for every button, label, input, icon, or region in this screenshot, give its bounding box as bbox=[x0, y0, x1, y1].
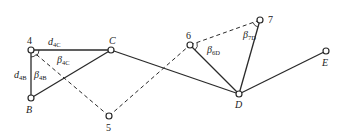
angle-arc-4C bbox=[37, 50, 40, 56]
dashed-edge-4-5 bbox=[31, 50, 109, 116]
edge-D-E bbox=[239, 51, 326, 94]
annotation-beta6D: β6D bbox=[206, 44, 220, 56]
annotation-d4C: d4C bbox=[48, 36, 61, 48]
point-E bbox=[323, 48, 329, 54]
dashed-edge-6-7 bbox=[190, 20, 260, 45]
point-6 bbox=[187, 42, 193, 48]
angle-arc-7D bbox=[253, 23, 258, 28]
label-5: 5 bbox=[106, 122, 111, 133]
point-C bbox=[108, 47, 114, 53]
point-4 bbox=[28, 47, 34, 53]
label-C: C bbox=[109, 35, 116, 46]
label-6: 6 bbox=[186, 30, 191, 41]
point-7 bbox=[257, 17, 263, 23]
dashed-edge-5-6 bbox=[109, 45, 190, 116]
traverse-diagram: 4 B C 5 6 7 D E d4C d4B β4C β4B β6D β7D bbox=[0, 0, 347, 138]
annotation-d4B: d4B bbox=[14, 69, 27, 81]
label-4: 4 bbox=[27, 35, 32, 46]
angle-arc-4B bbox=[31, 55, 36, 58]
angle-arc-6D bbox=[195, 43, 197, 51]
annotation-beta4B: β4B bbox=[33, 69, 47, 81]
label-D: D bbox=[234, 99, 243, 110]
label-E: E bbox=[321, 57, 328, 68]
annotation-beta7D: β7D bbox=[242, 29, 256, 41]
point-B bbox=[28, 95, 34, 101]
annotation-beta4C: β4C bbox=[56, 54, 70, 66]
point-D bbox=[236, 91, 242, 97]
edge-C-D bbox=[111, 50, 239, 94]
label-7: 7 bbox=[268, 14, 273, 25]
label-B: B bbox=[26, 104, 32, 115]
point-5 bbox=[106, 113, 112, 119]
